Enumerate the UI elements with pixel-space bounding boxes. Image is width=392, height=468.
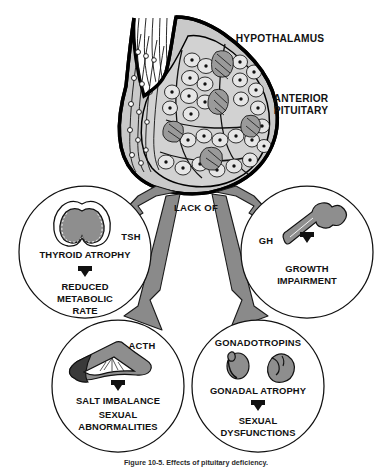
branch-gh[interactable]: GH GROWTH IMPAIRMENT — [241, 186, 373, 318]
branch-tsh[interactable]: TSH THYROID ATROPHY REDUCED METABOLIC RA… — [19, 186, 151, 318]
thyroid-icon — [54, 201, 111, 246]
acth-effect-line2: ABNORMALITIES — [78, 421, 157, 432]
diagram-canvas: LACK OF HYPOTHALAMUS ANTERIOR PITUITARY … — [0, 0, 392, 468]
anterior-pituitary-label-line1: ANTERIOR — [274, 93, 329, 104]
branch-acth[interactable]: ACTH SALT IMBALANCE SEXUAL ABNORMALITIES — [52, 320, 184, 452]
pituitary-deficiency-figure: LACK OF HYPOTHALAMUS ANTERIOR PITUITARY … — [0, 0, 392, 468]
gh-hormone-label: GH — [259, 235, 273, 246]
tsh-effect-line2: METABOLIC — [57, 293, 113, 304]
acth-effect-primary: SALT IMBALANCE — [76, 395, 160, 406]
lack-of-label: LACK OF — [174, 202, 218, 213]
tsh-effect-primary: THYROID ATROPHY — [39, 249, 131, 260]
gh-effect-line2: IMPAIRMENT — [277, 275, 337, 286]
figure-caption: Figure 10-5. Effects of pituitary defici… — [124, 458, 268, 467]
anterior-pituitary-label-line2: PITUITARY — [274, 105, 328, 116]
gonadotropins-hormone-label: GONADOTROPINS — [215, 337, 301, 348]
tsh-effect-line1: REDUCED — [61, 281, 108, 292]
tsh-effect-line3: RATE — [72, 305, 97, 316]
branch-gh-circle[interactable] — [241, 186, 373, 318]
gonadotropins-effect-line2: DYSFUNCTIONS — [220, 427, 295, 438]
acth-hormone-label: ACTH — [129, 340, 156, 351]
gh-effect-line1: GROWTH — [285, 263, 328, 274]
acth-effect-line1: SEXUAL — [99, 409, 138, 420]
gonadotropins-effect-primary: GONADAL ATROPHY — [210, 385, 307, 396]
branch-gonadotropins[interactable]: GONADOTROPINS GONADAL ATROPHY SEXUAL DYS… — [192, 320, 324, 452]
hypothalamus-label: HYPOTHALAMUS — [236, 33, 324, 44]
gonadotropins-effect-line1: SEXUAL — [239, 415, 278, 426]
tsh-hormone-label: TSH — [121, 231, 140, 242]
